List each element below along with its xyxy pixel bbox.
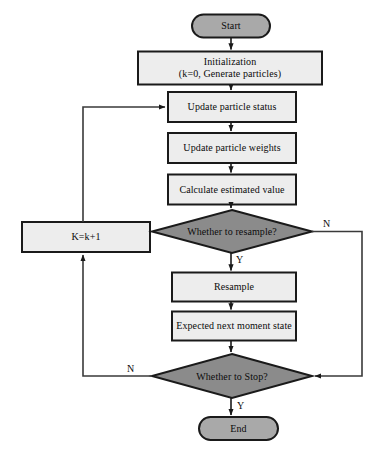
flowchart-graphics: [0, 0, 384, 458]
edge-label-stop-no: N: [127, 364, 134, 374]
node-start-shape: [192, 15, 270, 38]
node-resample-shape: [172, 273, 296, 302]
edge-resample-question-no-to-stop-question: [312, 232, 362, 377]
node-update-status-shape: [168, 92, 296, 122]
edge-increment-to-update-status: [83, 107, 165, 222]
node-calc-value-shape: [168, 175, 296, 205]
edge-stop-question-no-to-increment: [83, 255, 152, 376]
node-update-weights-shape: [168, 133, 296, 163]
edge-label-resample-yes: Y: [236, 255, 243, 265]
node-end-shape: [199, 417, 278, 440]
node-resample-question-shape: [152, 210, 312, 253]
edge-label-resample-no: N: [323, 219, 330, 229]
node-expected-shape: [172, 312, 296, 341]
node-increment-shape: [22, 222, 150, 252]
node-stop-question-shape: [152, 354, 312, 398]
edge-label-stop-yes: Y: [237, 401, 244, 411]
flowchart-canvas: Start Initialization (k=0, Generate part…: [0, 0, 384, 458]
node-init-shape: [138, 52, 322, 85]
